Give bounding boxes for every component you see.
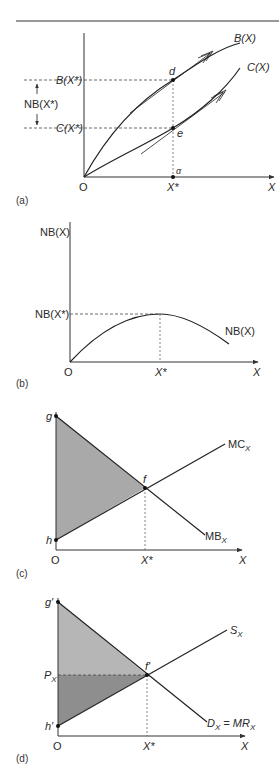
x-star-a: X*	[166, 181, 179, 193]
point-f-prime-label: f'	[145, 660, 151, 672]
point-g-label: g	[46, 410, 53, 422]
price-label: PX	[44, 669, 57, 684]
panel-b: NB(X) NB(X*) NB(X) O X* X (b)	[16, 222, 261, 389]
origin-b: O	[64, 366, 73, 378]
point-d	[171, 78, 175, 82]
point-e-label: e	[177, 127, 183, 139]
point-g	[54, 414, 58, 418]
net-benefit-area	[56, 416, 145, 540]
caption-c: (c)	[16, 568, 28, 579]
benefit-curve	[84, 43, 240, 177]
demand-label: DX = MRX	[207, 717, 256, 732]
x-star-d: X*	[142, 740, 155, 752]
tangent-at-e	[141, 92, 225, 154]
x-axis-label-a: X	[267, 181, 276, 193]
mc-label: MCX	[228, 438, 251, 453]
nb-peak-label: NB(X*)	[35, 308, 69, 320]
origin-c: O	[51, 554, 60, 566]
origin-a: O	[79, 181, 88, 193]
tangent-at-d	[130, 52, 212, 113]
point-alpha	[171, 175, 175, 179]
point-g-prime-label: g'	[45, 596, 54, 608]
x-star-b: X*	[154, 366, 167, 378]
point-e	[171, 126, 175, 130]
nb-bracket-label: NB(X*)	[24, 98, 58, 110]
point-f-label: f	[143, 473, 147, 485]
point-h-label: h	[46, 534, 52, 546]
alpha-label: α	[176, 166, 182, 176]
cost-curve-label: C(X)	[247, 61, 270, 73]
point-h	[54, 538, 58, 542]
b-level-label: B(X*)	[56, 74, 83, 86]
origin-d: O	[53, 740, 62, 752]
point-f-prime	[145, 673, 149, 677]
caption-a: (a)	[16, 195, 28, 206]
x-axis-label-c: X	[238, 554, 247, 566]
benefit-curve-label: B(X)	[234, 32, 256, 44]
x-axis-label-d: X	[240, 740, 249, 752]
mb-label: MBX	[205, 530, 228, 545]
caption-d: (d)	[16, 753, 28, 764]
point-d-label: d	[169, 65, 176, 77]
x-star-c: X*	[140, 554, 153, 566]
point-g-prime	[56, 600, 60, 604]
y-axis-label-b: NB(X)	[40, 226, 70, 238]
panel-a: B(X) C(X) B(X*) C(X*) NB(X*) d e α O X* …	[16, 32, 276, 206]
net-benefit-curve	[70, 314, 229, 362]
point-h-prime	[56, 724, 60, 728]
panel-c: g h f MCX MBX O X* X (c)	[16, 410, 251, 579]
caption-b: (b)	[16, 378, 28, 389]
point-f	[143, 486, 147, 490]
point-h-prime-label: h'	[45, 720, 54, 732]
supply-label: SX	[230, 624, 243, 639]
c-level-label: C(X*)	[56, 122, 83, 134]
x-axis-label-b: X	[252, 366, 261, 378]
cost-curve	[84, 68, 240, 177]
panel-d: g' h' f' PX SX DX = MRX O X* X (d)	[16, 596, 256, 764]
nb-curve-label: NB(X)	[225, 325, 255, 337]
